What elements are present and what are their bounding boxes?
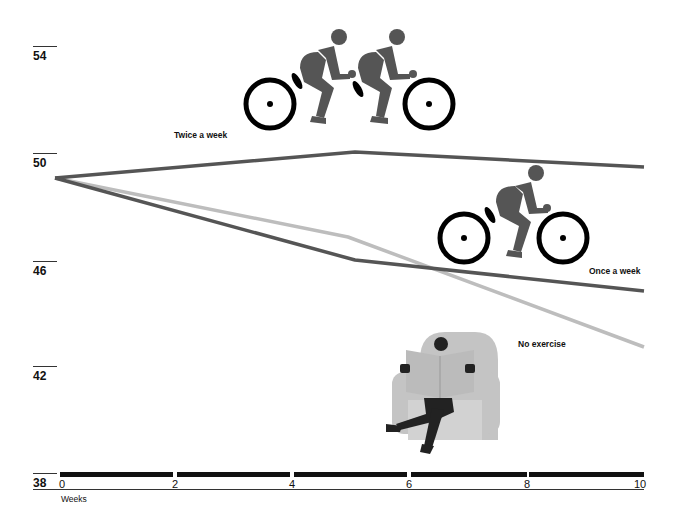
x-tick-label: 8 — [524, 478, 530, 490]
y-tick-label: 50 — [33, 156, 46, 170]
x-tick-label: 2 — [172, 478, 178, 490]
x-tick-label: 6 — [406, 478, 412, 490]
x-tick-label: 10 — [634, 478, 646, 490]
y-tick-38 — [33, 473, 57, 474]
x-tick-label: 4 — [289, 478, 295, 490]
tandem-bicycle-icon — [246, 29, 453, 128]
y-tick-54 — [33, 46, 57, 47]
x-axis — [33, 472, 644, 490]
bicycle-icon — [440, 165, 587, 262]
x-tick-label: 0 — [59, 478, 65, 490]
line-chart — [0, 0, 674, 530]
series-line-twice-a-week — [55, 152, 644, 178]
series-label-once-a-week: Once a week — [589, 266, 641, 276]
armchair-reader-icon — [386, 332, 500, 454]
y-tick-label: 46 — [33, 264, 46, 278]
series-label-no-exercise: No exercise — [518, 339, 566, 349]
y-tick-46 — [33, 261, 57, 262]
y-tick-50 — [33, 153, 57, 154]
x-axis-title: Weeks — [61, 494, 87, 504]
y-tick-label: 42 — [33, 369, 46, 383]
y-tick-label: 54 — [33, 49, 46, 63]
series-label-twice-a-week: Twice a week — [174, 130, 227, 140]
y-tick-42 — [33, 366, 57, 367]
y-tick-label: 38 — [33, 476, 46, 490]
